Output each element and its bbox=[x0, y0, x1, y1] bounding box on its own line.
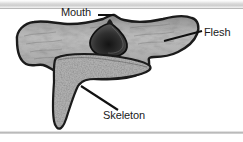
leader-line-skeleton bbox=[81, 86, 118, 110]
leader-line-mouth bbox=[98, 14, 114, 16]
page-edge-band-bottom bbox=[0, 131, 243, 134]
label-flesh: Flesh bbox=[204, 26, 230, 38]
page-margin-bottom bbox=[0, 138, 243, 142]
anatomical-diagram-figure: Mouth Flesh Skeleton bbox=[0, 0, 243, 142]
label-mouth: Mouth bbox=[61, 6, 91, 18]
label-skeleton: Skeleton bbox=[103, 109, 145, 121]
